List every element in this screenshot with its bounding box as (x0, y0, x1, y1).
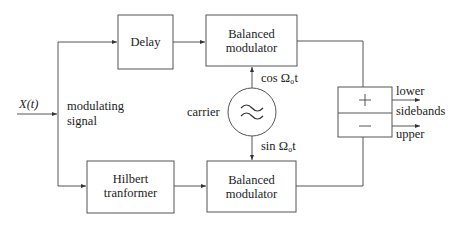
carrier-oscillator (228, 88, 276, 136)
carrier-label: carrier (187, 105, 220, 119)
mod-bottom-line2: modulator (207, 187, 296, 201)
plus-icon (359, 94, 371, 106)
mod-bottom-line1: Balanced (207, 173, 296, 187)
top-to-summer-line (297, 41, 363, 87)
hilbert-line1: Hilbert (87, 172, 174, 186)
delay-label: Delay (118, 35, 173, 49)
mod-top-line1: Balanced (206, 27, 297, 41)
signal-label: signal (67, 114, 97, 128)
bottom-to-summer-line (296, 137, 363, 186)
modulating-label: modulating (67, 99, 124, 113)
approx-icon (241, 105, 263, 119)
lower-label: lower (396, 84, 424, 98)
upper-label: upper (396, 127, 424, 141)
mod-top-line2: modulator (206, 41, 297, 55)
hilbert-line2: tranformer (87, 186, 174, 200)
input-symbol: X(t) (19, 97, 38, 111)
sidebands-label: sidebands (396, 104, 445, 118)
cos-label: cos Ω₀t (261, 71, 298, 85)
sin-label: sin Ω₀t (261, 139, 296, 153)
